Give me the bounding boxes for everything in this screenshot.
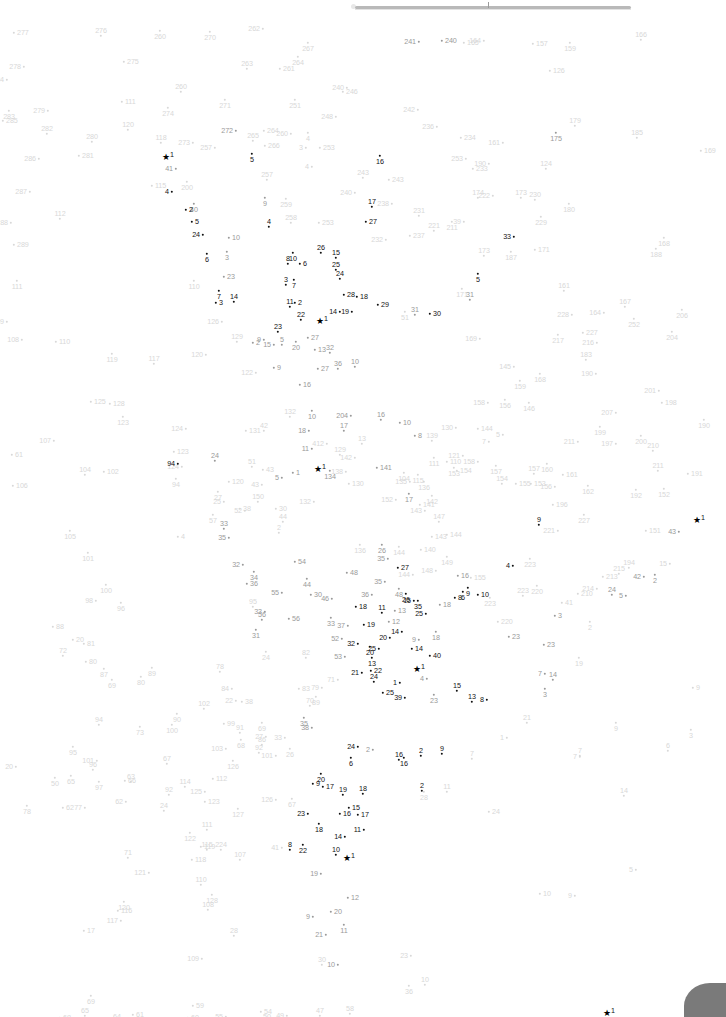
scatter-point-label: 25 bbox=[386, 689, 394, 696]
scatter-dot bbox=[497, 621, 499, 623]
scatter-point-label: 107 bbox=[39, 437, 51, 444]
scatter-point-label: 9 bbox=[257, 336, 261, 343]
scatter-point-label: 112 bbox=[54, 210, 65, 217]
scatter-dot bbox=[418, 215, 420, 217]
scatter-point-label: 116 bbox=[121, 907, 132, 914]
scatter-plot-area[interactable]: 2772762602702622672642632612412401651641… bbox=[0, 12, 726, 1017]
scatter-point-label: 12 bbox=[351, 894, 359, 901]
scatter-point-label: 12 bbox=[392, 618, 400, 625]
scatter-point-label: 4 bbox=[420, 675, 424, 682]
scatter-canvas: 2772762602702622672642632612412401651641… bbox=[0, 0, 726, 1017]
scatter-dot bbox=[412, 574, 414, 576]
scatter-point-label: 65 bbox=[67, 778, 75, 785]
scatter-point-label: 117 bbox=[148, 355, 159, 362]
scatter-dot bbox=[281, 592, 283, 594]
scatter-point-label: 120 bbox=[122, 121, 134, 128]
scatter-point-label: 50 bbox=[51, 780, 59, 787]
scatter-point-label: 25 bbox=[415, 610, 423, 617]
scatter-point-label: 62 bbox=[115, 798, 123, 805]
scatter-point-label: 24 bbox=[608, 586, 616, 593]
scatter-point-label: 94 bbox=[95, 716, 103, 723]
scatter-point-label: 134 bbox=[324, 473, 336, 480]
scatter-dot bbox=[357, 814, 359, 816]
scatter-dot bbox=[337, 368, 339, 370]
scatter-dot bbox=[220, 849, 222, 851]
scatter-dot bbox=[669, 563, 671, 565]
scatter-point-label: 278 bbox=[9, 63, 21, 70]
scatter-point-label: 15 bbox=[332, 249, 340, 256]
scatter-dot bbox=[350, 415, 352, 417]
scatter-point-label: 241 bbox=[404, 38, 416, 45]
scatter-point-label: 50 bbox=[263, 1013, 271, 1017]
scatter-point-label: 6 bbox=[666, 742, 670, 749]
scatter-dot bbox=[235, 130, 237, 132]
scatter-dot bbox=[21, 339, 23, 341]
scatter-dot bbox=[273, 344, 275, 346]
scatter-point-label: 87 bbox=[100, 671, 108, 678]
scatter-point-label: 260 bbox=[276, 130, 288, 137]
scatter-dot bbox=[282, 521, 284, 523]
scatter-point-label: 18 bbox=[359, 785, 367, 792]
scatter-point-label: 4 bbox=[165, 188, 169, 195]
scatter-point-label: 111 bbox=[429, 460, 440, 467]
scatter-point-label: 17 bbox=[368, 198, 376, 205]
scatter-dot bbox=[438, 521, 440, 523]
scatter-point-label: 17 bbox=[405, 496, 413, 503]
scatter-dot bbox=[294, 561, 296, 563]
scatter-point-label: 13 bbox=[468, 693, 476, 700]
scatter-dot bbox=[241, 701, 243, 703]
scatter-dot bbox=[397, 567, 399, 569]
scatter-point-label: 173 bbox=[515, 189, 527, 196]
scatter-point-label: 125 bbox=[94, 398, 106, 405]
scatter-dot bbox=[337, 679, 339, 681]
scatter-point-label: 39 bbox=[394, 694, 402, 701]
scatter-dot bbox=[55, 341, 57, 343]
scatter-dot bbox=[233, 935, 235, 937]
scatter-dot bbox=[562, 474, 564, 476]
scatter-point-label: 8 bbox=[458, 594, 462, 601]
scatter-point-label: 4 bbox=[181, 533, 185, 540]
scatter-point-label: 73 bbox=[136, 729, 144, 736]
scatter-dot bbox=[538, 524, 540, 526]
scatter-point-label: 194 bbox=[623, 559, 635, 566]
scatter-dot bbox=[582, 332, 584, 334]
scatter-point-label: 14 bbox=[334, 833, 342, 840]
scatter-dot bbox=[420, 549, 422, 551]
scatter-point-label: 223 bbox=[524, 561, 536, 568]
scatter-point-label: 191 bbox=[691, 470, 703, 477]
scatter-point-label: 204 bbox=[666, 334, 678, 341]
scatter-point-label: 9 bbox=[696, 684, 700, 691]
scatter-point-label: 14 bbox=[549, 671, 557, 678]
scatter-point-label: 6 bbox=[349, 760, 353, 767]
scatter-dot bbox=[298, 688, 300, 690]
scatter-point-label: 110 bbox=[59, 338, 70, 345]
scatter-dot bbox=[339, 278, 341, 280]
scatter-dot bbox=[337, 964, 339, 966]
scatter-point-label: 16 bbox=[303, 381, 311, 388]
scatter-dot bbox=[354, 366, 356, 368]
scatter-star-label: 1 bbox=[324, 315, 328, 322]
scatter-point-label: 23 bbox=[227, 273, 235, 280]
scatter-point-label: 72 bbox=[59, 647, 67, 654]
scatter-point-label: 101 bbox=[261, 752, 273, 759]
scatter-dot bbox=[645, 530, 647, 532]
scatter-point-label: 27 bbox=[321, 365, 329, 372]
scatter-point-label: 289 bbox=[17, 241, 29, 248]
scatter-point-label: 286 bbox=[24, 155, 36, 162]
scatter-dot bbox=[185, 209, 187, 211]
scatter-point-label: 83 bbox=[302, 685, 310, 692]
scatter-point-label: 252 bbox=[628, 321, 640, 328]
scatter-point-label: 4 bbox=[305, 163, 309, 170]
scatter-point-label: 233 bbox=[476, 165, 488, 172]
scatter-point-label: 154 bbox=[460, 467, 472, 474]
scatter-dot bbox=[166, 763, 168, 765]
scatter-point-label: 213 bbox=[606, 573, 618, 580]
scatter-dot bbox=[339, 813, 341, 815]
scatter-point-label: 77 bbox=[74, 804, 82, 811]
scatter-point-label: 5 bbox=[195, 218, 199, 225]
scatter-dot bbox=[177, 536, 179, 538]
scatter-dot bbox=[563, 290, 565, 292]
scatter-dot bbox=[414, 435, 416, 437]
scatter-star-label: 1 bbox=[170, 151, 174, 158]
scatter-point-label: 92 bbox=[165, 786, 173, 793]
